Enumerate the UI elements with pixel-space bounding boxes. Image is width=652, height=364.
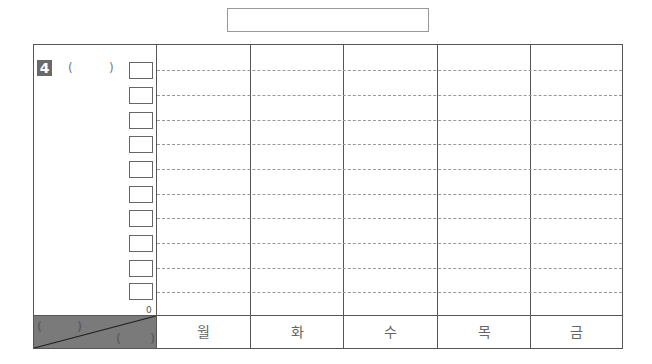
scale-input-box[interactable]	[129, 186, 153, 203]
grid-line	[157, 218, 622, 219]
day-label-wed: 수	[344, 324, 437, 340]
grid-line	[157, 70, 622, 71]
corner-top-paren-close: )	[77, 320, 82, 334]
scale-input-box[interactable]	[129, 112, 153, 129]
diagonal-line	[34, 316, 156, 348]
scale-input-box[interactable]	[129, 283, 153, 300]
day-label-fri: 금	[531, 324, 622, 340]
corner-top-paren-open: (	[37, 320, 42, 334]
column-divider	[437, 44, 438, 349]
grid-line	[157, 268, 622, 269]
scale-input-box[interactable]	[129, 136, 153, 153]
column-divider	[250, 44, 251, 349]
day-label-tue: 화	[251, 324, 343, 340]
scale-input-box[interactable]	[129, 161, 153, 178]
grid-line	[157, 120, 622, 121]
axis-divider	[156, 44, 157, 349]
question-number-badge: 4	[37, 60, 52, 76]
scale-input-box[interactable]	[129, 87, 153, 104]
day-label-mon: 월	[157, 324, 250, 340]
scale-input-box[interactable]	[129, 210, 153, 227]
unit-paren-open: (	[68, 60, 73, 76]
grid-line	[157, 194, 622, 195]
scale-input-box[interactable]	[129, 260, 153, 277]
corner-header-cell: ( ) ( )	[34, 316, 156, 348]
grid-line	[157, 95, 622, 96]
grid-line	[157, 144, 622, 145]
grid-line	[157, 292, 622, 293]
day-label-thu: 목	[438, 324, 530, 340]
corner-bottom-paren-open: (	[116, 332, 121, 346]
unit-paren-close: )	[109, 60, 114, 76]
column-divider	[343, 44, 344, 349]
corner-bottom-paren-close: )	[150, 332, 155, 346]
scale-input-box[interactable]	[129, 235, 153, 252]
unit-input[interactable]	[76, 60, 108, 76]
grid-line	[157, 169, 622, 170]
grid-line	[157, 243, 622, 244]
title-input-box[interactable]	[227, 8, 429, 32]
graph-table	[33, 44, 623, 349]
scale-input-box[interactable]	[129, 62, 153, 79]
zero-label: 0	[146, 305, 152, 315]
column-divider	[530, 44, 531, 349]
